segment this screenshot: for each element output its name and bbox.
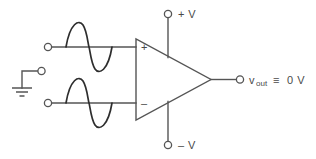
- output-value-label: 0 V: [287, 74, 305, 86]
- output-relation-symbol: ≡: [273, 74, 280, 86]
- noninverting-input-sign: +: [141, 41, 147, 53]
- positive-rail-terminal[interactable]: [164, 10, 171, 17]
- bottom-input-terminal[interactable]: [44, 99, 51, 106]
- negative-rail-terminal[interactable]: [164, 141, 171, 148]
- output-symbol-label: v: [249, 74, 255, 86]
- ground-wire: [22, 71, 38, 88]
- output-subscript-label: out: [256, 79, 268, 88]
- negative-rail-label: – V: [178, 139, 196, 151]
- top-input-terminal[interactable]: [44, 43, 51, 50]
- opamp-schematic-diagram: + V – V + – v o: [0, 0, 316, 159]
- positive-rail-label: + V: [178, 8, 196, 20]
- ground-symbol: [12, 88, 32, 96]
- output-label-group: v out ≡ 0 V: [249, 74, 305, 88]
- ground-terminal[interactable]: [38, 67, 45, 74]
- inverting-input-sign: –: [141, 97, 148, 109]
- output-terminal[interactable]: [236, 76, 243, 83]
